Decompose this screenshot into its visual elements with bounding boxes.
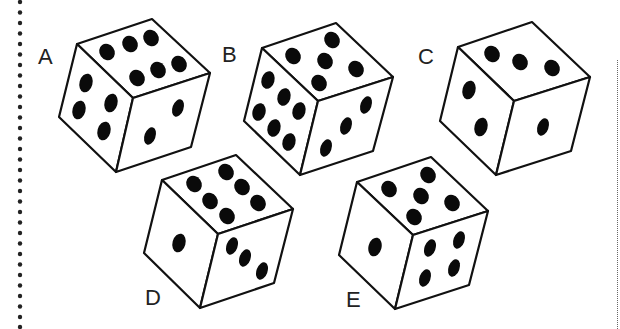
dice-figure [0, 0, 620, 329]
die-c [440, 22, 590, 175]
die-label-e: E [346, 287, 361, 313]
die-label-b: B [222, 42, 237, 68]
die-label-a: A [38, 44, 53, 70]
die-e [339, 157, 488, 309]
die-label-c: C [418, 44, 434, 70]
die-d [144, 155, 293, 308]
die-label-d: D [145, 285, 161, 311]
